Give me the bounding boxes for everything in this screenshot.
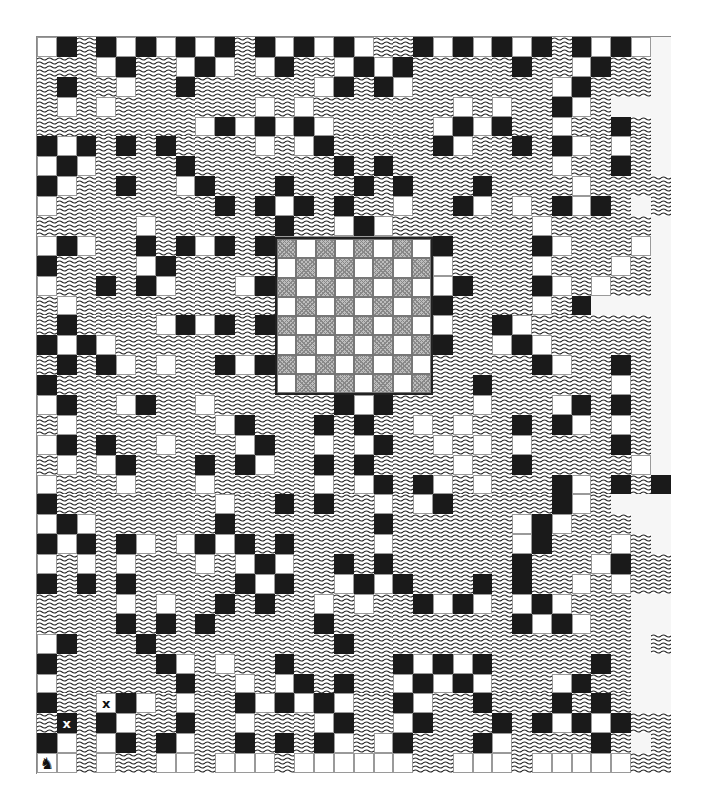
white-tile[interactable] (195, 554, 215, 574)
black-tile[interactable] (255, 37, 275, 57)
white-tile[interactable] (314, 594, 334, 614)
black-tile-marked[interactable]: x (57, 713, 77, 733)
black-tile[interactable] (255, 355, 275, 375)
black-tile[interactable] (215, 37, 235, 57)
chess-square-light[interactable] (335, 278, 354, 297)
chess-square-dark[interactable] (373, 335, 392, 354)
chess-square-light[interactable] (296, 239, 315, 258)
black-tile[interactable] (37, 733, 57, 753)
white-tile[interactable] (314, 37, 334, 57)
white-tile[interactable] (195, 236, 215, 256)
white-tile[interactable] (96, 97, 116, 117)
chess-square-dark[interactable] (393, 316, 412, 335)
black-tile[interactable] (473, 375, 493, 395)
black-tile[interactable] (453, 594, 473, 614)
black-tile[interactable] (275, 534, 295, 554)
white-tile[interactable] (235, 713, 255, 733)
white-tile[interactable] (492, 753, 512, 773)
black-tile[interactable] (334, 395, 354, 415)
white-tile[interactable] (176, 693, 196, 713)
white-tile[interactable] (512, 594, 532, 614)
knight-icon[interactable]: ♞ (38, 754, 56, 772)
white-tile[interactable] (57, 415, 77, 435)
white-tile[interactable] (294, 136, 314, 156)
black-tile[interactable] (255, 196, 275, 216)
white-tile[interactable] (176, 733, 196, 753)
black-tile[interactable] (156, 654, 176, 674)
white-tile[interactable] (116, 475, 136, 495)
black-tile[interactable] (116, 136, 136, 156)
white-tile[interactable] (552, 117, 572, 137)
white-tile[interactable] (413, 494, 433, 514)
black-tile[interactable] (532, 594, 552, 614)
black-tile[interactable] (57, 156, 77, 176)
white-tile[interactable] (393, 753, 413, 773)
white-tile[interactable] (255, 693, 275, 713)
white-tile[interactable] (314, 77, 334, 97)
white-tile[interactable] (453, 654, 473, 674)
black-tile[interactable] (453, 276, 473, 296)
faded-tile[interactable] (631, 514, 651, 534)
faded-tile[interactable] (651, 435, 671, 455)
white-tile[interactable] (136, 256, 156, 276)
black-tile[interactable] (176, 315, 196, 335)
black-tile[interactable] (215, 196, 235, 216)
black-tile[interactable] (512, 415, 532, 435)
chess-square-light[interactable] (393, 335, 412, 354)
white-tile[interactable] (413, 415, 433, 435)
chess-square-dark[interactable] (335, 297, 354, 316)
white-tile[interactable] (433, 276, 453, 296)
chess-square-dark[interactable] (277, 355, 296, 374)
chess-square-dark[interactable] (316, 278, 335, 297)
faded-tile[interactable] (631, 693, 651, 713)
faded-tile[interactable] (631, 634, 651, 654)
black-tile[interactable] (176, 674, 196, 694)
white-tile[interactable] (195, 395, 215, 415)
black-tile[interactable] (96, 355, 116, 375)
black-tile[interactable] (354, 216, 374, 236)
faded-tile[interactable] (651, 355, 671, 375)
black-tile[interactable] (235, 574, 255, 594)
white-tile[interactable] (176, 534, 196, 554)
faded-tile[interactable] (651, 57, 671, 77)
white-tile[interactable] (156, 315, 176, 335)
white-tile[interactable] (572, 415, 592, 435)
black-tile[interactable] (572, 77, 592, 97)
chess-square-light[interactable] (335, 239, 354, 258)
white-tile[interactable] (275, 674, 295, 694)
white-tile[interactable] (374, 574, 394, 594)
white-tile[interactable] (591, 37, 611, 57)
black-tile[interactable] (473, 733, 493, 753)
black-tile[interactable] (532, 276, 552, 296)
black-tile[interactable] (136, 634, 156, 654)
black-tile[interactable] (116, 693, 136, 713)
black-tile[interactable] (116, 614, 136, 634)
chess-square-light[interactable] (354, 258, 373, 277)
black-tile[interactable] (591, 196, 611, 216)
white-tile[interactable] (235, 117, 255, 137)
black-tile[interactable] (195, 176, 215, 196)
white-tile[interactable] (473, 435, 493, 455)
white-tile[interactable] (156, 594, 176, 614)
black-tile[interactable] (176, 156, 196, 176)
chess-square-light[interactable] (316, 335, 335, 354)
black-tile[interactable] (572, 674, 592, 694)
black-tile[interactable] (354, 574, 374, 594)
white-tile[interactable] (374, 733, 394, 753)
white-tile[interactable] (492, 97, 512, 117)
black-tile[interactable] (314, 693, 334, 713)
faded-tile[interactable] (631, 296, 651, 316)
chess-square-light[interactable] (316, 297, 335, 316)
black-tile[interactable] (532, 534, 552, 554)
black-tile[interactable] (136, 395, 156, 415)
white-tile[interactable] (473, 37, 493, 57)
white-tile[interactable] (591, 554, 611, 574)
black-tile[interactable] (512, 335, 532, 355)
black-tile[interactable] (492, 117, 512, 137)
white-tile[interactable] (572, 574, 592, 594)
white-tile[interactable] (235, 753, 255, 773)
faded-tile[interactable] (651, 77, 671, 97)
faded-tile[interactable] (651, 136, 671, 156)
black-tile[interactable] (255, 315, 275, 335)
white-tile[interactable] (532, 753, 552, 773)
